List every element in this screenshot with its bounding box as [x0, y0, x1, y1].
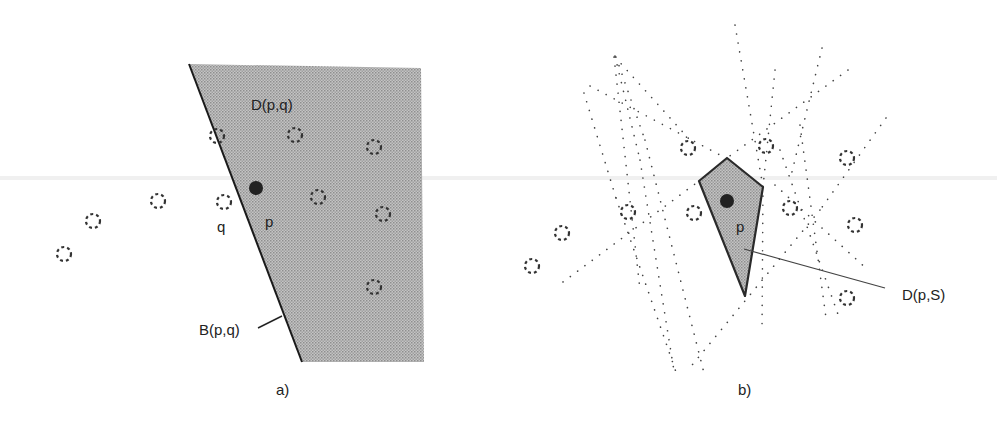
- site-marker: [86, 214, 100, 228]
- region-leader-line: [744, 249, 885, 288]
- site-marker: [840, 151, 854, 165]
- bisector-line: [640, 160, 674, 371]
- site-marker: [759, 139, 773, 153]
- site-marker: [555, 226, 569, 240]
- site-marker: [840, 291, 854, 305]
- bisector-line: [590, 86, 720, 155]
- site-marker: [57, 247, 71, 261]
- site-marker: [525, 259, 539, 273]
- site-marker: [151, 194, 165, 208]
- bisector-line: [563, 181, 699, 282]
- site-marker: [681, 141, 695, 155]
- region-label-D-p-q: D(p,q): [251, 96, 293, 113]
- bisector-line: [775, 185, 868, 270]
- bisector-line: [645, 140, 704, 373]
- bisector-line: [615, 57, 690, 140]
- bisector-line: [735, 25, 763, 187]
- bisector-line: [763, 70, 775, 187]
- bisector-line: [616, 57, 645, 140]
- site-q-marker: [217, 195, 231, 209]
- site-marker: [621, 205, 635, 219]
- point-label-q: q: [217, 218, 225, 235]
- bisector-line: [790, 48, 822, 180]
- panel-a: D(p,q) p q B(p,q) a): [57, 64, 424, 398]
- bisector-line: [614, 57, 640, 290]
- bisector-line: [584, 93, 616, 198]
- bisector-line: [780, 150, 840, 320]
- caption-a: a): [276, 381, 289, 398]
- dominance-region-D-p-S: [699, 158, 763, 296]
- point-label-p: p: [265, 213, 273, 230]
- caption-b: b): [738, 381, 751, 398]
- scan-artifact: [0, 176, 997, 180]
- point-label-p: p: [736, 218, 744, 235]
- bisector-line: [820, 118, 886, 210]
- bisector-leader-line: [258, 316, 282, 328]
- site-marker: [687, 206, 701, 220]
- bisector-line: [762, 187, 763, 330]
- panel-b: p D(p,S) b): [525, 25, 945, 398]
- dominance-region-D-p-q: [189, 64, 424, 362]
- bisector-label-B-p-q: B(p,q): [199, 321, 240, 338]
- site-marker: [783, 201, 797, 215]
- site-marker: [848, 218, 862, 232]
- region-label-D-p-S: D(p,S): [902, 286, 945, 303]
- bisector-line: [616, 198, 676, 372]
- site-p-marker: [249, 181, 263, 195]
- bisector-line: [615, 56, 640, 160]
- bisector-line: [800, 125, 826, 318]
- sites-b: [525, 139, 862, 305]
- voronoi-figure: D(p,q) p q B(p,q) a): [0, 0, 997, 427]
- bisector-line: [727, 70, 848, 158]
- site-p-marker: [720, 194, 734, 208]
